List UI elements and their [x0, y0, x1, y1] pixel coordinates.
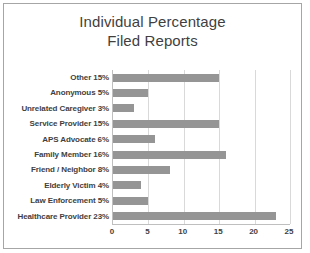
bar-row	[113, 116, 290, 131]
bar	[113, 89, 148, 97]
bar	[113, 181, 141, 189]
plot-area	[112, 70, 290, 225]
category-axis-labels: Other 15%Anonymous 5%Unrelated Caregiver…	[4, 70, 109, 224]
value-axis-tick-labels: 0510152025	[112, 226, 289, 240]
bar-row	[113, 70, 290, 85]
category-label: Unrelated Caregiver 3%	[21, 101, 109, 116]
category-label: Friend / Neighbor 8%	[31, 162, 109, 177]
bar-row	[113, 162, 290, 177]
bar-row	[113, 193, 290, 208]
bar-row	[113, 85, 290, 100]
tick-label: 15	[214, 226, 223, 238]
category-label: Family Member 16%	[34, 147, 109, 162]
category-label: Other 15%	[70, 70, 109, 85]
category-label: Law Enforcement 5%	[30, 193, 109, 208]
tick-label: 0	[110, 226, 114, 238]
bar	[113, 197, 148, 205]
category-label: Elderly Victim 4%	[44, 178, 109, 193]
bar-row	[113, 209, 290, 224]
bar-row	[113, 132, 290, 147]
tick-label: 5	[145, 226, 149, 238]
category-label: APS Advocate 6%	[42, 132, 109, 147]
bar	[113, 120, 219, 128]
bar-row	[113, 147, 290, 162]
bar	[113, 104, 134, 112]
bar	[113, 166, 170, 174]
bar	[113, 74, 219, 82]
bar-row	[113, 178, 290, 193]
tick-label: 20	[249, 226, 258, 238]
category-label: Anonymous 5%	[50, 85, 109, 100]
category-label: Service Provider 15%	[30, 116, 109, 131]
tick-label: 25	[285, 226, 294, 238]
bar	[113, 135, 155, 143]
tick-label: 10	[178, 226, 187, 238]
bar-series	[113, 70, 290, 224]
chart-container: Individual Percentage Filed Reports Othe…	[3, 3, 302, 249]
bar	[113, 151, 226, 159]
bar	[113, 212, 276, 220]
category-label: Healthcare Provider 23%	[17, 209, 109, 224]
bar-row	[113, 101, 290, 116]
gridline	[290, 70, 291, 224]
chart-title: Individual Percentage Filed Reports	[4, 12, 301, 50]
